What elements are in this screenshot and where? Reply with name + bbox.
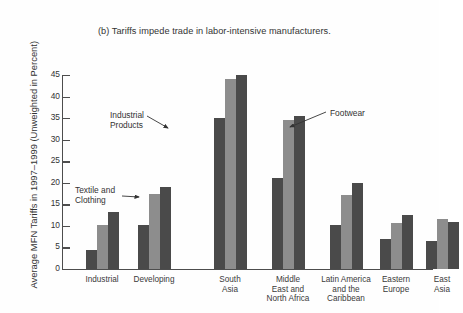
annotation-footwear: Footwear [330, 108, 365, 118]
x-axis-category-label: East Asia [402, 275, 463, 294]
bar-stack [272, 75, 305, 269]
y-tick-label: 35 [38, 112, 60, 122]
bar[interactable] [108, 212, 119, 269]
y-tick-label: 20 [38, 177, 60, 187]
chart-title: (b) Tariffs impede trade in labor-intens… [98, 26, 331, 36]
y-tick: 40 [38, 97, 70, 98]
y-tick-label: 25 [38, 155, 60, 165]
bar-stack [214, 75, 247, 269]
bar[interactable] [236, 75, 247, 269]
bar-group [214, 75, 247, 269]
bar-stack [86, 75, 119, 269]
bar[interactable] [138, 225, 149, 269]
bar-stack [330, 75, 363, 269]
y-axis-title: Average MFN Tariffs in 1997–1999 (Unweig… [28, 59, 39, 289]
bar-group [272, 75, 305, 269]
bar-group [380, 75, 413, 269]
bar[interactable] [437, 219, 448, 269]
bar-group [86, 75, 119, 269]
x-axis-line [62, 269, 433, 270]
bar-stack [380, 75, 413, 269]
bar[interactable] [426, 241, 437, 269]
bar-stack [138, 75, 171, 269]
y-tick-mark [63, 161, 70, 162]
plot-area: 051015202530354045 IndustrialDevelopingS… [62, 75, 433, 270]
bar-group [426, 75, 459, 269]
bar[interactable] [448, 222, 459, 269]
y-tick: 35 [38, 118, 70, 119]
bar[interactable] [330, 225, 341, 269]
y-tick: 10 [38, 226, 70, 227]
bar[interactable] [352, 183, 363, 269]
y-tick-label: 30 [38, 134, 60, 144]
x-axis-category-label: Developing [114, 275, 194, 285]
y-tick-label: 15 [38, 198, 60, 208]
y-tick-mark [63, 247, 70, 248]
y-tick-label: 5 [38, 241, 60, 251]
y-tick-label: 10 [38, 220, 60, 230]
y-tick-mark [63, 118, 70, 119]
bar[interactable] [225, 79, 236, 269]
bar[interactable] [391, 223, 402, 269]
y-tick: 15 [38, 204, 70, 205]
bar[interactable] [214, 118, 225, 269]
bar[interactable] [86, 250, 97, 269]
bar[interactable] [294, 116, 305, 269]
y-tick-label: 45 [38, 69, 60, 79]
bar[interactable] [402, 215, 413, 269]
bar[interactable] [380, 239, 391, 269]
annotation-textile-clothing: Textile and Clothing [75, 185, 115, 205]
y-tick: 25 [38, 161, 70, 162]
bar[interactable] [341, 195, 352, 269]
y-tick-mark [63, 183, 70, 184]
bar-group [330, 75, 363, 269]
y-tick-mark [63, 226, 70, 227]
y-tick-mark [63, 97, 70, 98]
bar[interactable] [160, 187, 171, 269]
bar[interactable] [149, 194, 160, 269]
y-tick: 30 [38, 140, 70, 141]
y-tick: 45 [38, 75, 70, 76]
y-tick-label: 40 [38, 91, 60, 101]
y-tick-mark [63, 269, 70, 270]
y-tick-label: 0 [38, 263, 60, 273]
y-tick-mark [63, 204, 70, 205]
y-tick: 20 [38, 183, 70, 184]
bar[interactable] [272, 178, 283, 269]
y-axis-line [62, 75, 63, 270]
y-tick: 5 [38, 247, 70, 248]
y-tick-mark [63, 140, 70, 141]
y-tick-mark [63, 75, 70, 76]
annotation-industrial-products: Industrial Products [110, 110, 144, 130]
bar-group [138, 75, 171, 269]
bar[interactable] [97, 225, 108, 269]
y-tick: 0 [38, 269, 70, 270]
bar[interactable] [283, 120, 294, 269]
bar-stack [426, 75, 459, 269]
